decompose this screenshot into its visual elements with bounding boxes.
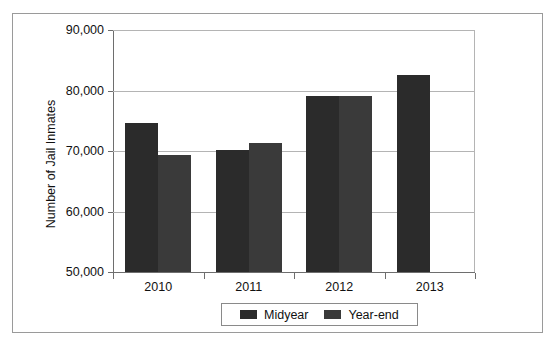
legend-label: Midyear <box>264 308 308 322</box>
x-axis-tick-mark <box>113 273 114 279</box>
x-axis-label-2010: 2010 <box>144 280 172 294</box>
x-axis-label-2013: 2013 <box>416 280 444 294</box>
chart-legend: MidyearYear-end <box>221 303 418 326</box>
y-axis-tick-label: 50,000 <box>66 265 104 279</box>
gridline <box>113 30 475 31</box>
y-axis-tick-label: 70,000 <box>66 144 104 158</box>
y-axis-tick-mark <box>108 30 113 31</box>
legend-entry-midyear: Midyear <box>240 308 308 322</box>
x-axis-label-2012: 2012 <box>325 280 353 294</box>
y-axis-tick-mark <box>108 91 113 92</box>
bar-midyear-2011 <box>216 150 249 272</box>
midyear-swatch <box>240 310 257 319</box>
x-axis-tick-mark <box>385 273 386 279</box>
x-axis-tick-mark <box>294 273 295 279</box>
bar-year-end-2010 <box>158 155 191 272</box>
y-axis-tick-mark <box>108 212 113 213</box>
x-axis-label-2011: 2011 <box>235 280 262 294</box>
y-axis-title-label: Number of Jail Inmates <box>44 84 58 244</box>
year-end-swatch <box>324 310 341 319</box>
y-axis-tick-label: 60,000 <box>66 205 104 219</box>
y-axis-tick-label: 80,000 <box>66 84 104 98</box>
y-axis-tick-mark <box>108 151 113 152</box>
legend-entry-year-end: Year-end <box>324 308 398 322</box>
bar-midyear-2010 <box>125 123 158 272</box>
x-axis-tick-mark <box>204 273 205 279</box>
y-axis-title: Number of Jail Inmates <box>44 0 62 84</box>
bar-midyear-2013 <box>397 75 430 272</box>
bar-midyear-2012 <box>306 96 339 272</box>
x-axis-tick-mark <box>475 273 476 279</box>
bar-year-end-2012 <box>339 96 372 272</box>
bar-year-end-2011 <box>249 143 282 272</box>
legend-label: Year-end <box>348 308 398 322</box>
y-axis-tick-label: 90,000 <box>66 23 104 37</box>
plot-area: 90,00080,00070,00060,00050,000 201020112… <box>113 30 475 272</box>
chart-figure: Number of Jail Inmates 90,00080,00070,00… <box>0 0 554 346</box>
